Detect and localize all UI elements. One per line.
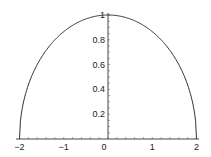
ticks	[20, 15, 197, 139]
y-tick-label: 0.8	[92, 35, 105, 45]
y-tick-label: 0.6	[92, 60, 105, 70]
tick-labels: −2−10120.20.40.60.81	[14, 10, 199, 152]
x-tick-label: 2	[194, 142, 199, 152]
y-tick-label: 0.4	[92, 84, 105, 94]
x-tick-label: 0	[101, 142, 106, 152]
axes	[16, 13, 199, 139]
x-tick-label: 1	[150, 142, 155, 152]
x-tick-label: −2	[14, 142, 24, 152]
y-tick-label: 0.2	[92, 109, 105, 119]
x-tick-label: −1	[59, 142, 69, 152]
chart: −2−10120.20.40.60.81	[0, 0, 211, 157]
